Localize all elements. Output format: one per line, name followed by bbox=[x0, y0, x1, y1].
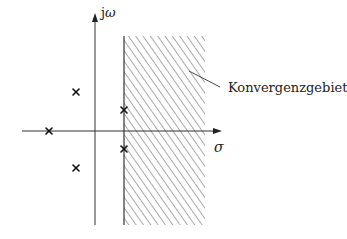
sigma-axis-label: σ bbox=[214, 139, 224, 155]
pole-marker-icon bbox=[73, 165, 79, 171]
jw-axis-label: jω bbox=[101, 5, 116, 20]
jw-axis-arrow-icon bbox=[92, 13, 98, 22]
poles bbox=[46, 89, 127, 171]
jw-axis bbox=[92, 13, 98, 225]
convergence-region-label: Konvergenzgebiet bbox=[228, 80, 347, 95]
sigma-axis-arrow-icon bbox=[213, 128, 222, 134]
pole-marker-icon bbox=[73, 89, 79, 95]
jw-label-omega: ω bbox=[105, 5, 116, 20]
